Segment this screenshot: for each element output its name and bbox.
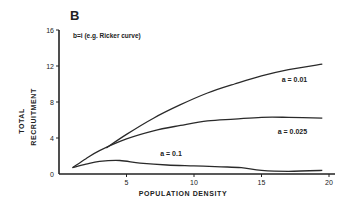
series-label: a = 0.01 [282,76,308,83]
y-axis-title: TOTAL RECRUITMENT [18,88,37,146]
x-axis-ticks: 5101520 [125,174,333,186]
y-tick-label: 0 [50,171,54,178]
y-axis-title-line2: RECRUITMENT [30,88,37,146]
x-tick-label: 10 [190,179,198,186]
x-tick-label: 15 [258,179,266,186]
y-axis-ticks: 0481216 [46,27,59,178]
x-tick-label: 5 [125,179,129,186]
x-tick-label: 20 [325,179,333,186]
series-label: a = 0.025 [278,128,307,135]
axes [59,30,335,174]
series-label: a = 0.1 [160,150,182,157]
x-axis-title: POPULATION DENSITY [139,190,227,197]
y-tick-label: 8 [50,99,54,106]
panel-label: B [70,8,79,23]
series-labels: a = 0.01a = 0.025a = 0.1 [160,76,307,157]
chart-subtitle: b=i (e.g. Ricker curve) [73,32,141,40]
y-tick-label: 12 [46,63,54,70]
curve-a-0-1 [73,160,323,171]
recruitment-chart: B b=i (e.g. Ricker curve) TOTAL RECRUITM… [0,0,349,210]
y-tick-label: 4 [50,135,54,142]
y-axis-title-line1: TOTAL [18,108,25,134]
y-tick-label: 16 [46,27,54,34]
